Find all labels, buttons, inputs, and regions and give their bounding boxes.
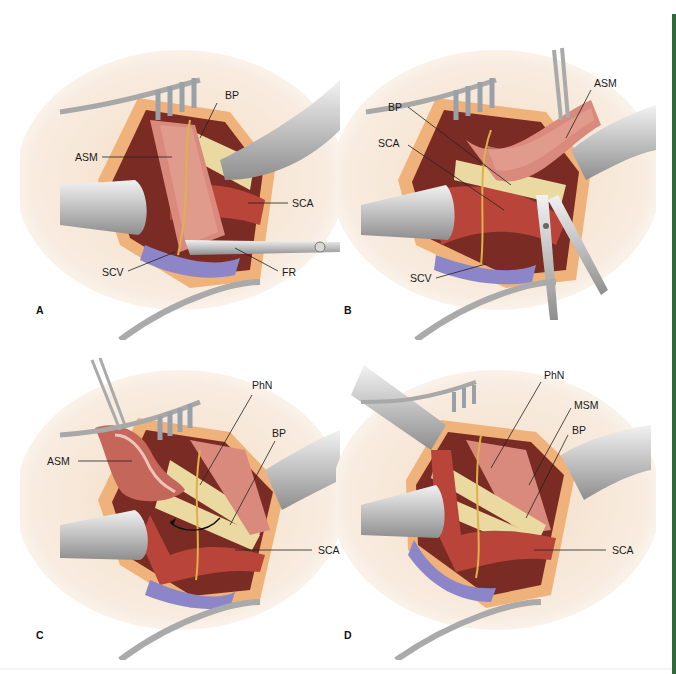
surgical-field-illustration-c: [20, 340, 340, 660]
page-edge-accent-bar: [672, 14, 676, 674]
label-asm: ASM: [594, 78, 617, 89]
panel-letter-c: C: [36, 630, 44, 641]
label-bp: BP: [572, 425, 586, 436]
surgical-field-illustration-b: [336, 20, 656, 340]
label-scv: SCV: [410, 273, 432, 284]
label-bp: BP: [225, 90, 239, 101]
panel-a: BP ASM SCA SCV FR A: [20, 20, 340, 340]
label-asm: ASM: [75, 152, 98, 163]
label-asm: ASM: [47, 456, 70, 467]
surgical-field-illustration-a: [20, 20, 340, 340]
label-sca: SCA: [612, 545, 634, 556]
panel-b: ASM BP SCA SCV B: [336, 20, 656, 340]
label-scv: SCV: [102, 267, 124, 278]
label-sca: SCA: [292, 198, 314, 209]
surgical-field-illustration-d: [336, 340, 656, 660]
label-bp: BP: [388, 102, 402, 113]
label-phn: PhN: [252, 380, 272, 391]
panel-letter-d: D: [344, 630, 352, 641]
panel-letter-a: A: [36, 305, 44, 316]
panel-c: PhN ASM BP SCA C: [20, 340, 340, 660]
label-sca: SCA: [378, 138, 400, 149]
panel-letter-b: B: [344, 305, 352, 316]
panel-d: PhN MSM BP SCA D: [336, 340, 656, 660]
label-fr: FR: [282, 267, 296, 278]
label-phn: PhN: [544, 370, 564, 381]
label-msm: MSM: [574, 400, 599, 411]
caption-remnant-strip: [0, 668, 672, 670]
label-bp: BP: [272, 428, 286, 439]
